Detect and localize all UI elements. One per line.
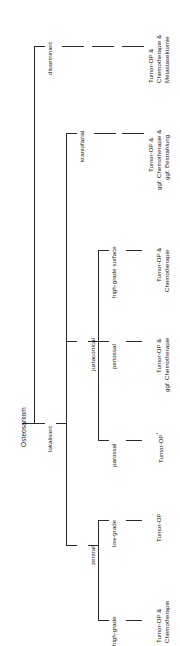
treatment-kraniofazial-line1: Tumor-OP & bbox=[147, 138, 154, 172]
connector-disseminiert-to-treatment-b bbox=[92, 46, 114, 47]
connector-high-grade-to-treatment bbox=[126, 620, 142, 621]
node-zentral: zentral bbox=[89, 546, 96, 565]
connector-high-grade-surface-to-treatment bbox=[126, 250, 142, 251]
treatment-disseminiert-line1: Tumor-OP & bbox=[147, 49, 154, 83]
treatment-high-grade-line1: Tumor-OP & bbox=[155, 609, 162, 643]
connector-lokalisiert-into-spine bbox=[56, 423, 67, 424]
treatment-high-grade-line2: Chemotherapie bbox=[163, 601, 170, 643]
node-low-grade: low-grade bbox=[110, 520, 117, 547]
connector-high-grade-surface-stub bbox=[98, 250, 109, 251]
connector-kraniofazial-stub bbox=[66, 133, 77, 134]
connector-periossal-to-treatment bbox=[126, 341, 142, 342]
treatment-low-grade-line1: Tumor-OP bbox=[155, 513, 162, 542]
treatment-periossal-line1: Tumor-OP & bbox=[155, 339, 162, 373]
connector-low-grade-stub bbox=[98, 520, 109, 521]
connector-disseminiert-to-treatment-a bbox=[62, 46, 84, 47]
connector-parossal-to-treatment bbox=[126, 440, 142, 441]
node-kraniofazial: kraniofazial bbox=[78, 131, 85, 162]
node-high-grade: high-grade bbox=[110, 616, 117, 646]
connector-lokalisiert-stub bbox=[34, 423, 45, 424]
treatment-disseminiert-line3: Metastasektomie bbox=[163, 36, 170, 83]
connector-juxtacortical-spine bbox=[98, 250, 99, 440]
treatment-parossal-text: Tumor-OP bbox=[157, 434, 164, 463]
node-lokalisiert: lokalisiert bbox=[46, 426, 53, 452]
node-periossal: periossal bbox=[110, 344, 117, 369]
connector-parossal-stub bbox=[98, 440, 109, 441]
connector-root-spine bbox=[34, 46, 35, 424]
treatment-kraniofazial-line2: ggf. Chemotherapie & bbox=[155, 130, 162, 190]
node-disseminiert: disseminiert bbox=[46, 42, 53, 75]
treatment-periossal-line2: ggf. Chemotherapie bbox=[163, 338, 170, 392]
connector-kraniofazial-to-treatment-b bbox=[122, 133, 144, 134]
connector-high-grade-stub bbox=[98, 620, 109, 621]
treatment-high-grade-surface-line2: Chemotherapie bbox=[163, 250, 170, 292]
connector-juxtacortical-stub bbox=[66, 341, 77, 342]
node-juxtacortical: juxtacortical bbox=[89, 338, 96, 371]
treatment-disseminiert-line2: Chemotherapie & bbox=[155, 35, 162, 83]
connector-periossal-stub bbox=[98, 341, 109, 342]
treatment-kraniofazial-line3: ggf. Bestrahlung bbox=[163, 135, 170, 180]
treatment-parossal-line1: Tumor-OP* bbox=[155, 433, 164, 463]
footnote-marker-icon: * bbox=[156, 433, 161, 435]
connector-zentral-stub bbox=[66, 545, 77, 546]
connector-lokalisiert-spine bbox=[66, 133, 67, 545]
node-high-grade-surface: high-grade surface bbox=[110, 246, 117, 298]
connector-zentral-spine bbox=[98, 520, 99, 620]
connector-disseminiert-stub bbox=[34, 46, 45, 47]
connector-kraniofazial-to-treatment-a bbox=[94, 133, 116, 134]
connector-low-grade-to-treatment bbox=[126, 520, 142, 521]
treatment-high-grade-surface-line1: Tumor-OP & bbox=[155, 248, 162, 282]
connector-disseminiert-to-treatment-c bbox=[122, 46, 144, 47]
node-parossal: parossal bbox=[110, 444, 117, 467]
node-root-osteosarkom: Osteosarkom bbox=[20, 407, 27, 447]
